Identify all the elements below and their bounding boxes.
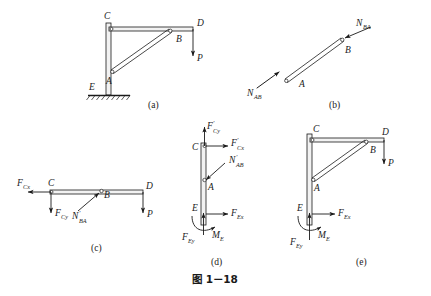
joint-a-e [312,178,315,181]
svg-text:′: ′ [236,153,238,160]
point-label-b-e: B [370,145,376,155]
svg-text:F: F [181,232,188,242]
beam-cd-e [310,138,384,142]
force-label-me-e: M E [317,230,330,242]
panel-b: A B N AB N BA (b) [246,18,371,111]
point-label-c-a: C [104,11,111,21]
svg-text:Ex: Ex [343,213,351,220]
point-label-a-b: A [298,79,305,89]
beam-cd-a [109,27,193,31]
joint-a-b [285,79,288,82]
svg-text:′: ′ [213,119,215,126]
point-label-e-a: E [88,82,95,92]
post-ce-e [307,134,312,225]
svg-text:E: E [219,235,224,242]
point-label-b-a: B [176,34,182,44]
panel-a: C B D A E P (a) [87,11,205,111]
joint-a-d [203,178,206,181]
force-label-fcy-prime-d: F ′ Cy [206,119,220,134]
point-label-c-e: C [313,124,320,134]
point-label-d-a: D [196,18,204,28]
point-label-d-c: D [145,181,153,191]
figure-caption: 图 1－18 [192,273,238,285]
point-label-b-c: B [104,190,110,200]
force-label-nab-prime-d: N ′ AB [228,153,244,168]
point-label-e-d: E [191,203,198,213]
force-label-fcy-c: F Cy [54,208,68,220]
strut-ab-a [111,29,172,74]
beam-cd-c [50,190,143,194]
point-label-c-c: C [48,178,55,188]
joint-b-a [169,29,172,32]
point-label-a-a: A [105,76,112,86]
svg-text:AB: AB [253,93,262,100]
strut-ab-e [312,140,368,182]
force-label-nab-b: N AB [246,88,262,100]
svg-text:Ex: Ex [236,213,244,220]
svg-text:F: F [54,208,61,218]
svg-text:Ey: Ey [295,242,303,249]
panel-label-d: (d) [211,257,222,268]
svg-text:Cy: Cy [213,127,220,134]
point-label-d-e: D [381,127,389,137]
svg-text:N: N [71,211,79,221]
svg-text:′: ′ [79,209,81,216]
force-label-fey-d: F Ey [181,232,195,244]
svg-text:AB: AB [235,161,244,168]
force-arrow-nba-prime-c [78,193,99,211]
joint-b-c [100,189,103,192]
force-label-fcx-prime-d: F ′ Cx [230,136,244,151]
svg-text:Cx: Cx [237,144,244,151]
svg-text:Ey: Ey [187,237,195,244]
svg-text:F: F [230,208,237,218]
svg-text:BA: BA [363,23,371,30]
force-label-fex-e: F Ex [337,208,351,220]
svg-text:F: F [289,237,296,247]
svg-text:F: F [337,208,344,218]
point-label-c-d: C [192,142,199,152]
force-label-fex-d: F Ex [230,208,244,220]
force-label-p-a: P [196,53,203,63]
svg-text:N: N [246,88,254,98]
panel-label-c: (c) [91,243,102,254]
force-label-p-e: P [387,158,394,168]
svg-text:F: F [230,138,237,148]
panel-d: C A E F ′ Cy F ′ Cx N ′ AB F Ex [181,119,244,268]
svg-text:′: ′ [237,136,239,143]
force-label-nba-prime-c: N ′ BA [71,209,87,224]
point-label-a-e: A [313,183,320,193]
statics-figure: C B D A E P (a) A B N [0,0,431,296]
panel-c: C B D F Cx F Cy N ′ BA P (c) [16,178,153,254]
joint-a-a [111,70,114,73]
svg-text:Cy: Cy [61,213,68,220]
force-label-me-d: M E [211,230,224,242]
svg-text:F: F [16,178,23,188]
joint-c-e [311,139,314,142]
panel-e: C B D A E P F Ex F Ey M E (e) [289,124,394,268]
panel-label-a: (a) [148,100,159,111]
force-label-p-c: P [146,209,153,219]
svg-text:E: E [325,235,330,242]
force-label-fey-e: F Ey [289,237,303,249]
force-label-fcx-c: F Cx [16,178,30,190]
point-label-a-d: A [207,182,214,192]
panel-label-e: (e) [356,257,367,268]
figure-root: C B D A E P (a) A B N [0,0,431,296]
joint-c-a [110,28,113,31]
post-ce-d [201,143,206,225]
force-label-nba-b: N BA [355,18,371,30]
joint-b-e [365,140,368,143]
svg-text:BA: BA [79,217,87,224]
svg-text:Cx: Cx [23,183,30,190]
force-arrow-nab-prime-d [206,163,225,180]
panel-label-b: (b) [329,100,340,111]
svg-text:F: F [206,121,213,131]
force-arrow-nab-b [257,72,280,88]
svg-text:N: N [228,155,236,165]
svg-text:N: N [355,18,363,28]
point-label-b-b: B [345,45,351,55]
strut-ab-b [285,38,344,83]
point-label-e-e: E [296,203,303,213]
joint-b-b [341,38,344,41]
